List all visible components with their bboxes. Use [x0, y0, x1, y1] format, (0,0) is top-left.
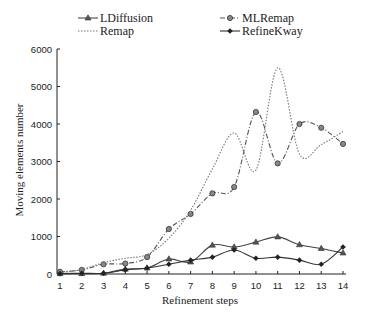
- circle-marker-icon: [297, 121, 302, 126]
- circle-marker-icon: [232, 184, 237, 189]
- x-tick-label: 8: [210, 280, 215, 291]
- circle-marker-icon: [123, 261, 128, 266]
- series-mlremap: [57, 109, 345, 274]
- triangle-marker-icon: [275, 234, 281, 239]
- x-tick-label: 10: [251, 280, 262, 291]
- y-tick-label: 2000: [31, 194, 52, 205]
- circle-marker-icon: [253, 109, 258, 114]
- x-tick-label: 4: [123, 280, 128, 291]
- circle-marker-icon: [227, 15, 232, 20]
- x-tick-label: 5: [144, 280, 149, 291]
- legend-item-ldiffusion: LDiffusion: [78, 11, 153, 25]
- y-tick-label: 5000: [31, 81, 52, 92]
- x-axis-title: Refinement steps: [162, 294, 238, 306]
- x-tick-label: 1: [57, 280, 62, 291]
- legend-label: LDiffusion: [100, 11, 153, 25]
- y-tick-label: 4000: [31, 119, 52, 130]
- y-tick-label: 6000: [31, 44, 52, 55]
- x-tick-label: 3: [101, 280, 106, 291]
- diamond-marker-icon: [166, 261, 172, 267]
- circle-marker-icon: [210, 191, 215, 196]
- x-tick-label: 12: [294, 280, 305, 291]
- line-chart: LDiffusionMLRemapRemapRefineKway 0100020…: [0, 0, 366, 320]
- circle-marker-icon: [166, 226, 171, 231]
- series-refinekway: [57, 244, 346, 276]
- x-tick-label: 6: [166, 280, 171, 291]
- circle-marker-icon: [101, 262, 106, 267]
- x-tick-label: 2: [79, 280, 84, 291]
- diamond-marker-icon: [227, 28, 233, 34]
- y-tick-label: 1000: [31, 231, 52, 242]
- x-tick-label: 9: [232, 280, 237, 291]
- y-tick-label: 3000: [31, 156, 52, 167]
- x-tick-label: 7: [188, 280, 193, 291]
- circle-marker-icon: [319, 125, 324, 130]
- axes: 0100020003000400050006000123456789101112…: [31, 44, 348, 292]
- circle-marker-icon: [275, 161, 280, 166]
- legend-item-mlremap: MLRemap: [220, 11, 294, 25]
- diamond-marker-icon: [123, 267, 129, 273]
- series-remap: [60, 68, 343, 273]
- series-ldiffusion: [57, 234, 346, 276]
- triangle-marker-icon: [85, 15, 91, 20]
- diamond-marker-icon: [253, 255, 259, 261]
- diamond-marker-icon: [318, 261, 324, 267]
- legend-item-remap: Remap: [78, 24, 134, 38]
- x-tick-label: 14: [338, 280, 349, 291]
- legend-label: Remap: [100, 24, 134, 38]
- x-tick-label: 13: [316, 280, 327, 291]
- y-tick-label: 0: [47, 269, 52, 280]
- diamond-marker-icon: [297, 257, 303, 263]
- diamond-marker-icon: [275, 254, 281, 260]
- legend-label: RefineKway: [242, 24, 303, 38]
- diamond-marker-icon: [210, 254, 216, 260]
- x-tick-label: 11: [273, 280, 283, 291]
- series-group: [57, 68, 346, 277]
- legend-label: MLRemap: [242, 11, 294, 25]
- circle-marker-icon: [340, 141, 345, 146]
- legend: LDiffusionMLRemapRemapRefineKway: [78, 11, 303, 38]
- y-axis-title: Moving elements number: [13, 103, 25, 216]
- legend-item-refinekway: RefineKway: [220, 24, 303, 38]
